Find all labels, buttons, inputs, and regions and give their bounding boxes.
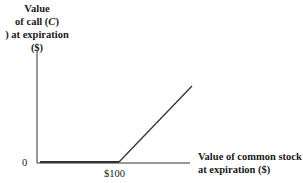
x-tick-strike: $100 (104, 168, 125, 179)
x-axis-label: Value of common stock at expiration ($) (198, 150, 302, 176)
x-label-line2: at expiration ($) (198, 163, 302, 176)
y-tick-zero: 0 (22, 157, 27, 168)
payoff-rising-segment (119, 86, 192, 162)
x-label-line1: Value of common stock (198, 150, 302, 163)
